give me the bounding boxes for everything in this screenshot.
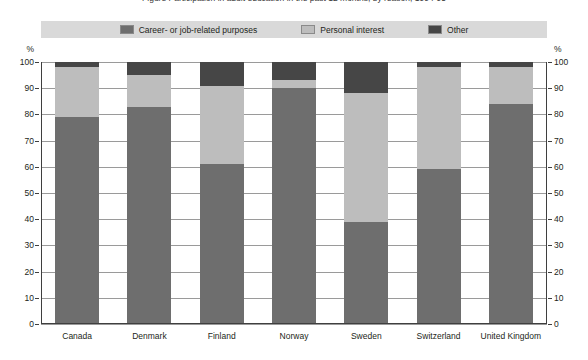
bar-segment-personal <box>344 93 388 221</box>
x-axis-label: Finland <box>186 331 258 341</box>
tick-left <box>35 245 39 246</box>
bar-segment-career <box>489 104 533 324</box>
x-axis-label: Norway <box>258 331 330 341</box>
y-tick-label-right: 20 <box>554 267 580 277</box>
tick-right <box>548 324 552 325</box>
bar-segment-personal <box>417 67 461 169</box>
y-tick-label-right: 70 <box>554 136 580 146</box>
bar-segment-career <box>417 169 461 324</box>
bar-segment-personal <box>127 75 171 106</box>
y-tick-label-right: 50 <box>554 188 580 198</box>
tick-left <box>35 219 39 220</box>
tick-left <box>35 298 39 299</box>
y-tick-label-right: 60 <box>554 162 580 172</box>
y-tick-label-left: 60 <box>8 162 34 172</box>
tick-right <box>548 114 552 115</box>
tick-left <box>35 167 39 168</box>
bar-segment-personal <box>200 86 244 165</box>
legend-item-personal: Personal interest <box>301 25 384 35</box>
bar-segment-career <box>55 117 99 324</box>
y-tick-label-left: 100 <box>8 57 34 67</box>
y-tick-label-right: 30 <box>554 240 580 250</box>
y-tick-label-left: 20 <box>8 267 34 277</box>
bar-segment-personal <box>272 80 316 88</box>
y-tick-label-left: 0 <box>8 319 34 329</box>
bar-segment-other <box>272 62 316 80</box>
gridline <box>41 324 547 325</box>
x-axis-label: Sweden <box>330 331 402 341</box>
y-tick-label-left: 50 <box>8 188 34 198</box>
tick-left <box>35 114 39 115</box>
plot-area <box>41 62 547 324</box>
y-tick-label-right: 90 <box>554 83 580 93</box>
bar-segment-career <box>272 88 316 324</box>
bar-column <box>272 62 316 324</box>
y-tick-label-left: 70 <box>8 136 34 146</box>
tick-right <box>548 219 552 220</box>
tick-right <box>548 141 552 142</box>
y-tick-label-left: 80 <box>8 109 34 119</box>
y-tick-label-right: 40 <box>554 214 580 224</box>
tick-right <box>548 62 552 63</box>
x-axis-line <box>41 323 547 324</box>
y-tick-label-right: 0 <box>554 319 580 329</box>
bar-segment-personal <box>55 67 99 117</box>
legend-label-other: Other <box>447 25 468 35</box>
tick-right <box>548 88 552 89</box>
y-axis-labels-left: 1009080706050403020100 <box>8 0 34 360</box>
bar-column <box>127 62 171 324</box>
y-axis-line-left <box>41 62 42 324</box>
x-axis-label: United Kingdom <box>475 331 547 341</box>
chart-title: Figure Participation in adult education … <box>0 0 588 5</box>
tick-right <box>548 245 552 246</box>
bar-segment-other <box>200 62 244 86</box>
legend-item-other: Other <box>428 25 468 35</box>
x-axis-label: Canada <box>41 331 113 341</box>
bar-column <box>55 62 99 324</box>
bar-segment-other <box>417 62 461 67</box>
y-tick-label-right: 100 <box>554 57 580 67</box>
tick-left <box>35 62 39 63</box>
legend-swatch-career <box>120 25 134 34</box>
y-tick-label-right: 10 <box>554 293 580 303</box>
tick-right <box>548 272 552 273</box>
y-tick-label-left: 10 <box>8 293 34 303</box>
bar-segment-other <box>489 62 533 67</box>
bar-segment-other <box>127 62 171 75</box>
x-axis-label: Switzerland <box>402 331 474 341</box>
y-axis-line-right <box>546 62 547 324</box>
y-tick-label-left: 40 <box>8 214 34 224</box>
chart-legend: Career- or job-related purposes Personal… <box>41 21 547 38</box>
y-tick-label-left: 90 <box>8 83 34 93</box>
tick-left <box>35 193 39 194</box>
bar-column <box>489 62 533 324</box>
bar-segment-career <box>127 107 171 324</box>
bar-segment-personal <box>489 67 533 104</box>
bar-column <box>344 62 388 324</box>
tick-left <box>35 141 39 142</box>
tick-right <box>548 193 552 194</box>
bar-segment-other <box>55 62 99 67</box>
bar-segment-career <box>200 164 244 324</box>
tick-left <box>35 272 39 273</box>
tick-left <box>35 324 39 325</box>
y-tick-label-right: 80 <box>554 109 580 119</box>
bar-segment-career <box>344 222 388 324</box>
tick-left <box>35 88 39 89</box>
x-axis-label: Denmark <box>113 331 185 341</box>
bar-column <box>200 62 244 324</box>
legend-swatch-other <box>428 25 442 34</box>
legend-label-career: Career- or job-related purposes <box>139 25 258 35</box>
y-axis-labels-right: 1009080706050403020100 <box>554 0 580 360</box>
tick-right <box>548 298 552 299</box>
legend-item-career: Career- or job-related purposes <box>120 25 258 35</box>
bar-column <box>417 62 461 324</box>
bar-segment-other <box>344 62 388 93</box>
tick-right <box>548 167 552 168</box>
legend-swatch-personal <box>301 25 315 34</box>
legend-label-personal: Personal interest <box>320 25 384 35</box>
y-tick-label-left: 30 <box>8 240 34 250</box>
